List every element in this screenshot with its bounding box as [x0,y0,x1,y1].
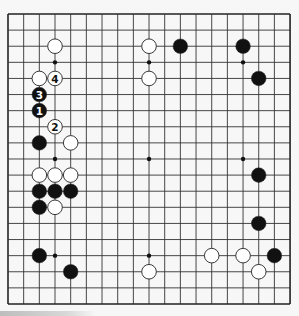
star-point-icon [147,60,151,64]
black-stone-icon [267,248,282,263]
star-point-icon [241,60,245,64]
black-stone-icon [63,264,78,279]
white-stone[interactable] [204,248,219,263]
white-stone[interactable] [236,248,251,263]
white-stone[interactable] [48,39,63,54]
black-stone[interactable] [63,184,78,199]
white-stone[interactable] [32,71,47,86]
black-stone[interactable] [63,264,78,279]
move-number-label: 4 [51,73,58,85]
star-point-icon [53,60,57,64]
white-stone-icon [63,168,78,183]
black-stone-icon [32,184,47,199]
white-stone-icon [32,168,47,183]
black-stone-icon [32,200,47,215]
white-stone-icon [48,39,63,54]
white-stone-icon [48,200,63,215]
black-stone[interactable] [32,184,47,199]
black-stone-move-3[interactable]: 3 [32,87,47,102]
white-stone-move-2[interactable]: 2 [48,119,63,134]
black-stone[interactable] [32,200,47,215]
black-stone[interactable] [32,248,47,263]
white-stone[interactable] [32,168,47,183]
move-number-label: 2 [51,121,58,133]
scan-edge-strip [0,311,96,316]
white-stone-icon [142,39,157,54]
black-stone-move-1[interactable]: 1 [32,103,47,118]
white-stone[interactable] [142,71,157,86]
white-stone[interactable] [63,136,78,151]
black-stone-icon [32,248,47,263]
white-stone[interactable] [142,264,157,279]
black-stone-icon [48,184,63,199]
black-stone-icon [251,168,266,183]
star-point-icon [53,157,57,161]
go-board[interactable]: 4312 [0,0,299,316]
white-stone-icon [63,136,78,151]
move-number-label: 1 [36,105,43,117]
move-number-label: 3 [36,89,43,101]
white-stone-icon [251,264,266,279]
star-point-icon [53,253,57,257]
white-stone[interactable] [48,200,63,215]
black-stone[interactable] [251,71,266,86]
black-stone[interactable] [251,216,266,231]
black-stone[interactable] [267,248,282,263]
white-stone-icon [32,71,47,86]
white-stone[interactable] [251,264,266,279]
black-stone-icon [63,184,78,199]
black-stone-icon [251,216,266,231]
black-stone-icon [251,71,266,86]
star-point-icon [241,157,245,161]
black-stone[interactable] [32,136,47,151]
white-stone-icon [236,248,251,263]
white-stone-icon [142,264,157,279]
white-stone[interactable] [48,168,63,183]
black-stone-icon [173,39,188,54]
black-stone-icon [32,136,47,151]
black-stone-icon [236,39,251,54]
white-stone-icon [142,71,157,86]
white-stone-icon [204,248,219,263]
white-stone-move-4[interactable]: 4 [48,71,63,86]
white-stone[interactable] [142,39,157,54]
black-stone[interactable] [236,39,251,54]
star-point-icon [147,253,151,257]
white-stone-icon [48,168,63,183]
black-stone[interactable] [173,39,188,54]
white-stone[interactable] [63,168,78,183]
black-stone[interactable] [251,168,266,183]
black-stone[interactable] [48,184,63,199]
star-point-icon [147,157,151,161]
